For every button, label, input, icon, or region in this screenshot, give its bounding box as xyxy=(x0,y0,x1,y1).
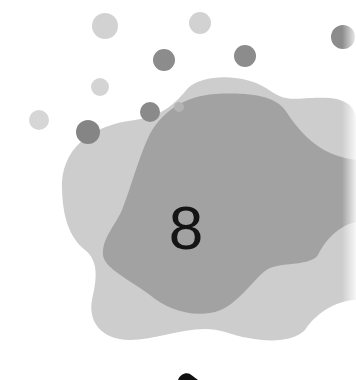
edge-fade xyxy=(342,0,356,380)
dark-dot xyxy=(234,45,256,67)
illustration-canvas: 8 xyxy=(0,0,356,380)
bottom-mark xyxy=(178,373,198,380)
light-dot xyxy=(91,78,109,96)
small-dot xyxy=(174,102,184,112)
light-dot xyxy=(29,110,49,130)
dark-dot xyxy=(140,102,160,122)
dark-dot xyxy=(153,49,175,71)
light-dot xyxy=(92,13,118,39)
dark-dot xyxy=(76,120,100,144)
light-dot xyxy=(189,12,211,34)
number-label: 8 xyxy=(0,190,356,266)
